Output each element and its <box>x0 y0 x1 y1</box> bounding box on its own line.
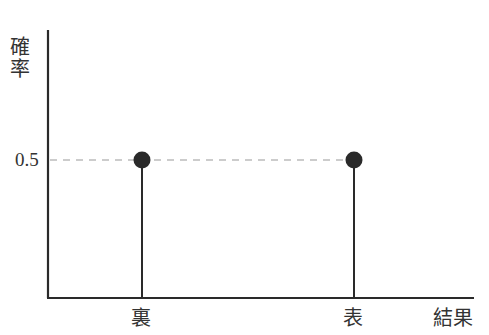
x-tick-label-omote: 表 <box>343 306 363 330</box>
x-axis-label: 結果 <box>433 306 473 330</box>
marker-omote <box>346 152 363 169</box>
stem-plot <box>0 0 489 335</box>
marker-ura <box>134 152 151 169</box>
x-tick-label-ura: 裏 <box>131 306 151 330</box>
